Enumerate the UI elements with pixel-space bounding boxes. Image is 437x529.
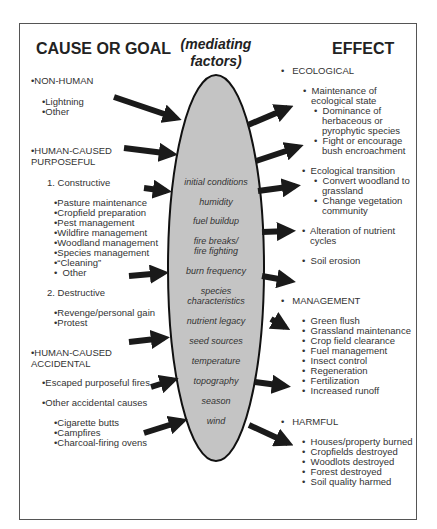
cause-non-human: •NON-HUMAN <box>31 76 93 86</box>
effect-item: • Soil quality harmed <box>302 477 391 487</box>
effect-line: community <box>314 206 368 216</box>
effect-line: • Soil erosion <box>302 256 360 266</box>
factor-fire-breaks: fire breaks/ <box>166 236 266 246</box>
effect-harmful: • HARMFUL <box>281 417 338 427</box>
factor-temperature: temperature <box>166 356 266 366</box>
cause-destructive: 2. Destructive <box>47 288 105 298</box>
cause-constructive: 1. Constructive <box>47 178 110 188</box>
arrow-purposeful <box>124 148 172 154</box>
factor-fire-fighting: fire fighting <box>166 246 266 256</box>
arrow-bush <box>256 147 298 161</box>
arrow-destructive <box>129 338 164 342</box>
factor-humidity: humidity <box>166 197 266 207</box>
cause-other: •Other <box>42 107 69 117</box>
factor-seed-sources: seed sources <box>166 336 266 346</box>
cause-item: •Charcoal-firing ovens <box>54 438 147 448</box>
cause-purposeful-1: •HUMAN-CAUSED <box>31 146 112 156</box>
effect-line: cycles <box>302 236 336 246</box>
factor-species: species <box>166 286 266 296</box>
factor-topography: topography <box>166 376 266 386</box>
arrow-constructive <box>144 188 166 191</box>
cause-item: • Other <box>54 268 86 278</box>
effect-line: bush encroachment <box>314 146 405 156</box>
factor-nutrient-legacy: nutrient legacy <box>166 316 266 326</box>
arrow-nutrient <box>262 231 290 232</box>
effect-header: EFFECT <box>332 40 394 58</box>
cause-other-accidental: •Other accidental causes <box>42 398 147 408</box>
mediating-header: (mediating factors) <box>176 36 256 70</box>
cause-accidental-2: ACCIDENTAL <box>31 359 90 369</box>
arrow-harmful <box>249 425 288 443</box>
mediating-line2: factors) <box>176 53 256 70</box>
cause-header: CAUSE OR GOAL <box>36 40 171 58</box>
effect-management: • MANAGEMENT <box>281 296 360 306</box>
arrow-maintenance <box>248 108 288 125</box>
factor-season: season <box>166 396 266 406</box>
factor-characteristics: characteristics <box>166 296 266 306</box>
cause-escaped: •Escaped purposeful fires <box>42 378 150 388</box>
cause-item: •Protest <box>54 318 87 328</box>
factor-initial-conditions: initial conditions <box>166 177 266 187</box>
arrow-green-flush <box>271 319 285 327</box>
cause-purposeful-2: PURPOSEFUL <box>31 157 95 167</box>
cause-accidental-1: •HUMAN-CAUSED <box>31 348 112 358</box>
effect-item: • Increased runoff <box>302 386 379 396</box>
arrow-constructive-other <box>129 273 163 276</box>
factor-wind: wind <box>166 416 266 426</box>
factor-fuel-buildup: fuel buildup <box>166 216 266 226</box>
factor-burn-frequency: burn frequency <box>166 266 266 276</box>
arrow-non-human <box>114 97 176 118</box>
arrow-soil <box>262 276 290 281</box>
effect-ecological: • ECOLOGICAL <box>281 66 354 76</box>
mediating-line1: (mediating <box>176 36 256 53</box>
